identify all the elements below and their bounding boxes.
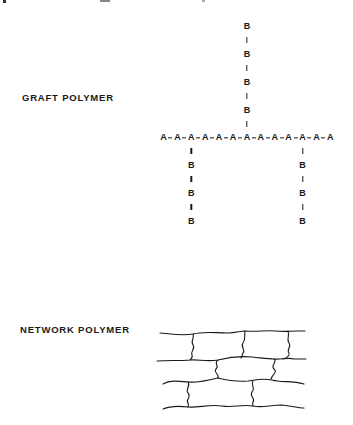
- polymer-chain: [163, 378, 304, 384]
- polymer-chain: [163, 405, 304, 409]
- crosslink: [187, 382, 189, 407]
- network-polymer-diagram: [0, 0, 353, 425]
- crosslink: [251, 381, 254, 406]
- polymer-chain: [160, 331, 305, 335]
- crosslink: [215, 360, 218, 378]
- crosslink: [241, 331, 245, 358]
- crosslink: [283, 331, 290, 359]
- crosslink: [190, 334, 194, 360]
- crosslink: [271, 359, 275, 379]
